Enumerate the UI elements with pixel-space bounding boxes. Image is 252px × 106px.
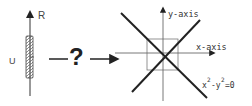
equation-label: x 2 -y 2 =0 <box>202 76 235 90</box>
svg-text:=0: =0 <box>225 81 235 90</box>
diagram-canvas: R U ? y-axis x-axis x 2 -y 2 =0 <box>0 0 252 106</box>
r-axis-label: R <box>38 10 45 21</box>
question-mark: ? <box>69 43 84 70</box>
svg-text:-y: -y <box>211 81 221 90</box>
xy-plane-panel: y-axis x-axis x 2 -y 2 =0 <box>115 8 235 101</box>
u-set-label: U <box>9 56 16 66</box>
mapping-arrow-group: ? <box>49 42 117 70</box>
real-line-panel: R U <box>9 10 45 96</box>
y-axis-label: y-axis <box>168 9 199 19</box>
x-axis-label: x-axis <box>196 42 227 52</box>
